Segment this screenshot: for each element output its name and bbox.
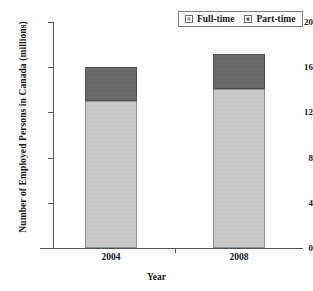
bar-2004: [85, 22, 137, 248]
bar-segment-full-time-2008: [213, 89, 265, 248]
x-tick-label: 2004: [71, 252, 151, 262]
y-tick-mark: [48, 22, 54, 23]
y-tick-mark: [48, 203, 54, 204]
y-axis-line: [53, 22, 54, 249]
legend-swatch-icon: [244, 15, 252, 23]
legend-item-full-time: Full-time: [185, 14, 234, 24]
y-tick-mark: [48, 67, 54, 68]
y-axis-label: Number of Employed Persons in Canada (mi…: [18, 12, 28, 242]
bar-segment-part-time-2008: [213, 54, 265, 89]
y-tick-label: 4: [273, 198, 313, 208]
x-tick-mark: [175, 248, 176, 253]
bar-2008: [213, 22, 265, 248]
y-tick-mark: [48, 158, 54, 159]
x-tick-label: 2008: [199, 252, 279, 262]
legend-swatch-icon: [185, 15, 193, 23]
y-tick-label: 16: [273, 62, 313, 72]
y-tick-label: 12: [273, 107, 313, 117]
bar-segment-full-time-2004: [85, 101, 137, 248]
legend-label: Part-time: [256, 14, 295, 24]
x-axis-line: [40, 248, 303, 249]
legend-label: Full-time: [197, 14, 234, 24]
y-tick-label: 8: [273, 153, 313, 163]
y-tick-mark: [48, 112, 54, 113]
stacked-bar-chart: Number of Employed Persons in Canada (mi…: [0, 0, 313, 291]
chart-legend: Full-timePart-time: [178, 11, 303, 27]
x-axis-label: Year: [0, 272, 313, 282]
legend-item-part-time: Part-time: [244, 14, 295, 24]
bar-segment-part-time-2004: [85, 67, 137, 101]
